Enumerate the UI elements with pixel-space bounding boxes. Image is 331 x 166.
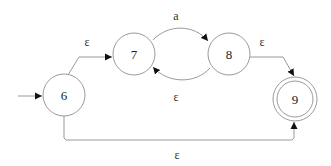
edge-6-to-9: ε xyxy=(64,116,294,162)
edge-label-8-9: ε xyxy=(259,35,264,49)
edge-label-7-8: a xyxy=(173,9,179,23)
state-label-9: 9 xyxy=(292,92,299,107)
state-8: 8 xyxy=(208,33,250,75)
edge-label-6-9: ε xyxy=(174,148,179,162)
state-label-6: 6 xyxy=(61,88,68,103)
edge-7-to-8: a xyxy=(153,9,208,41)
nfa-diagram: ε a ε ε ε 6 7 8 9 xyxy=(0,0,331,166)
edge-8-to-9: ε xyxy=(250,35,294,76)
edge-6-to-7: ε xyxy=(68,35,112,75)
edge-8-to-7: ε xyxy=(153,67,210,104)
edge-label-6-7: ε xyxy=(84,35,89,49)
state-label-7: 7 xyxy=(131,47,138,62)
state-9-accepting: 9 xyxy=(273,77,317,121)
state-6: 6 xyxy=(43,74,85,116)
state-7: 7 xyxy=(113,33,155,75)
edge-label-8-7: ε xyxy=(173,90,178,104)
diagram-svg: ε a ε ε ε 6 7 8 9 xyxy=(0,0,331,166)
state-label-8: 8 xyxy=(226,47,233,62)
